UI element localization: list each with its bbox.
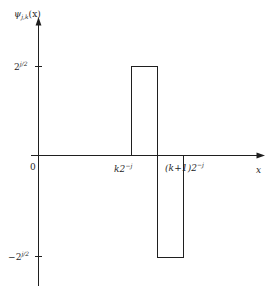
- y-axis-label-argument: (x): [29, 9, 41, 19]
- x-tick-right-label: (k+1)2−j: [165, 162, 204, 173]
- y-tick-negative-label: −2j/2: [8, 251, 29, 262]
- x-tick-left-exponent: −j: [125, 162, 132, 169]
- x-tick-left-base: k2: [114, 164, 125, 174]
- x-tick-right-base: (k+1)2: [165, 163, 197, 173]
- x-tick-left-label: k2−j: [114, 163, 132, 174]
- x-axis-label: x: [256, 166, 261, 175]
- origin-label: 0: [30, 163, 36, 172]
- y-axis: [36, 17, 42, 286]
- x-axis-arrowhead: [257, 153, 266, 159]
- wavelet-positive-rect: [132, 67, 158, 156]
- y-tick-positive-exponent: j/2: [20, 60, 28, 67]
- y-tick-negative-sign: −: [8, 252, 16, 262]
- wavelet-figure: [0, 0, 278, 299]
- y-tick-negative-exponent: j/2: [21, 250, 29, 257]
- x-tick-right-exponent: −j: [197, 161, 204, 168]
- y-axis-label: ψj,k(x): [14, 10, 41, 20]
- y-axis-label-subscript: j,k: [21, 13, 28, 20]
- y-tick-positive-label: 2j/2: [14, 61, 28, 72]
